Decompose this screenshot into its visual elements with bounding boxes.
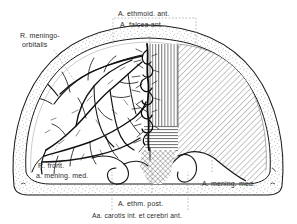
label-ethm-post: A. ethm. post. bbox=[118, 200, 163, 208]
anatomical-figure: A. ethmoid. ant. A. falcea ant. R. menin… bbox=[0, 0, 297, 224]
label-meningo-orbitalis-line2: orbitalis bbox=[22, 41, 48, 48]
label-front-mening-med-line2: a. mening. med. bbox=[36, 172, 88, 180]
cranial-base-diagram: A. ethmoid. ant. A. falcea ant. R. menin… bbox=[0, 0, 297, 224]
label-ethmoid-ant: A. ethmoid. ant. bbox=[118, 10, 169, 17]
label-carotis-cerebri: Aa. carotis int. et cerebri ant. bbox=[92, 212, 182, 219]
label-mening-med: A. mening. med. bbox=[202, 180, 255, 188]
label-meningo-orbitalis-line1: R. meningo- bbox=[20, 32, 60, 40]
label-front-mening-med-line1: R. front. bbox=[38, 162, 64, 169]
label-falcea-ant: A. falcea ant. bbox=[120, 21, 163, 28]
